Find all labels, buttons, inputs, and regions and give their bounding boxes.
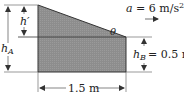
theta-label: θ — [110, 26, 116, 37]
width-label: 1.5 m — [68, 82, 100, 95]
fluid-region — [38, 5, 126, 72]
h-prime-label: h′ — [20, 15, 30, 28]
tank-acceleration-diagram: hA h′ θ hB= 0.5 m 1.5 m a = 6 m/s2 — [0, 0, 184, 97]
h-b-label: hB= 0.5 m — [133, 48, 184, 62]
acceleration-label: a = 6 m/s2 — [126, 1, 184, 15]
h-a-label: hA — [1, 42, 14, 56]
